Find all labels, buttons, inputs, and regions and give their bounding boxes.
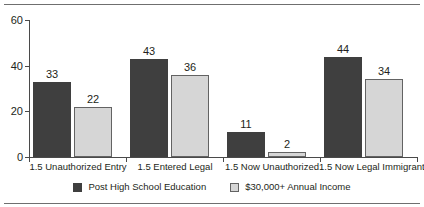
legend-label-0: Post High School Education xyxy=(88,182,206,192)
bottom-divider-rule xyxy=(4,203,420,204)
legend-label-1: $30,000+ Annual Income xyxy=(245,182,350,192)
plot-area: 60 40 20 0 33 22 xyxy=(30,20,418,157)
bar-value-series0-cat3: 44 xyxy=(337,44,349,55)
x-axis-label-cat0: 1.5 Unauthorized Entry xyxy=(28,162,128,172)
x-axis-label-cat1: 1.5 Entered Legal xyxy=(125,162,225,172)
bar-series1-cat2[interactable]: 2 xyxy=(268,152,306,157)
y-tick-label-60: 60 xyxy=(11,15,23,26)
bar-value-series0-cat0: 33 xyxy=(46,69,58,80)
bar-series0-cat1[interactable]: 43 xyxy=(130,59,168,157)
light-square-swatch-icon xyxy=(230,183,239,192)
bar-value-series1-cat1: 36 xyxy=(184,62,196,73)
bar-group-4: 44 34 xyxy=(321,20,417,157)
bar-series0-cat2[interactable]: 11 xyxy=(227,132,265,157)
bar-series1-cat1[interactable]: 36 xyxy=(171,75,209,157)
bar-value-series1-cat2: 2 xyxy=(284,139,290,150)
bar-series1-cat3[interactable]: 34 xyxy=(365,79,403,157)
y-tick-label-40: 40 xyxy=(11,60,23,71)
bar-group-2: 43 36 xyxy=(127,20,223,157)
chart-legend: Post High School Education $30,000+ Annu… xyxy=(0,182,424,192)
bar-value-series0-cat2: 11 xyxy=(240,119,251,130)
dark-square-swatch-icon xyxy=(73,183,82,192)
top-divider-rule xyxy=(4,4,420,5)
x-axis-label-cat2: 1.5 Now Unauthorized xyxy=(222,162,322,172)
bar-group-1: 33 22 xyxy=(30,20,126,157)
bar-value-series0-cat1: 43 xyxy=(143,46,155,57)
y-tick-label-20: 20 xyxy=(11,106,23,117)
bar-series0-cat0[interactable]: 33 xyxy=(33,82,71,157)
bar-series1-cat0[interactable]: 22 xyxy=(74,107,112,157)
bar-value-series1-cat3: 34 xyxy=(378,66,390,77)
legend-item-post-high-school-education[interactable]: Post High School Education xyxy=(73,182,206,192)
x-axis-label-cat3: 1.5 Now Legal Immigrant xyxy=(319,162,419,172)
bar-group-3: 11 2 xyxy=(224,20,320,157)
bar-series0-cat3[interactable]: 44 xyxy=(324,57,362,157)
y-tick-label-0: 0 xyxy=(17,152,23,163)
bar-chart-figure: 60 40 20 0 33 22 xyxy=(0,0,424,207)
legend-item-annual-income[interactable]: $30,000+ Annual Income xyxy=(230,182,350,192)
bar-value-series1-cat0: 22 xyxy=(87,94,99,105)
